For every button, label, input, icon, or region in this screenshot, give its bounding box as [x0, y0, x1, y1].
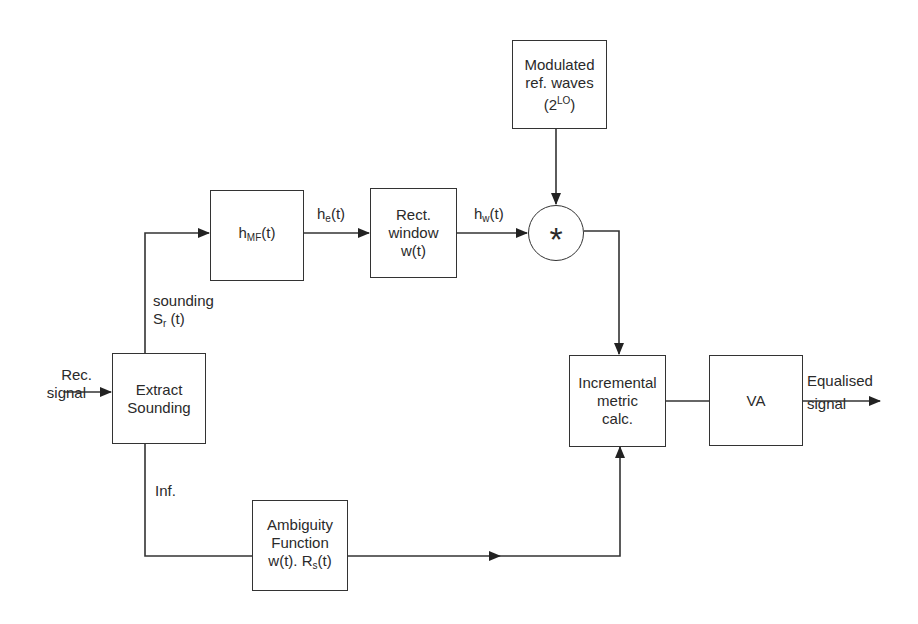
superscript: LO [557, 95, 570, 106]
block-label: (t) [317, 552, 331, 569]
label-line: (t) [331, 205, 345, 222]
label-line: S [153, 310, 163, 327]
modulated-ref-waves-block: Modulated ref. waves (2LO) [512, 40, 607, 129]
block-label: Extract [136, 381, 183, 398]
block-label: Rect. [396, 206, 431, 223]
block-label: Sounding [127, 399, 190, 416]
block-label: metric [597, 392, 638, 409]
ambiguity-function-block: Ambiguity Function w(t). Rs(t) [252, 500, 348, 591]
block-label: ref. waves [525, 74, 593, 91]
label-line: signal [807, 395, 846, 413]
he-signal-label: he(t) [317, 205, 345, 228]
inf-signal-label: Inf. [155, 482, 176, 500]
block-label: Modulated [524, 56, 594, 73]
input-signal-label: Rec. signal [48, 366, 92, 402]
output-signal-label: Equalised signal [807, 372, 873, 413]
hw-signal-label: hw(t) [474, 205, 504, 228]
label-line: (t) [490, 205, 504, 222]
block-label: ) [570, 96, 575, 113]
matched-filter-block: hMF(t) [210, 190, 304, 281]
viterbi-algorithm-block: VA [709, 355, 803, 446]
extract-sounding-block: Extract Sounding [112, 353, 206, 444]
block-label: h [239, 224, 247, 241]
block-label: Incremental [578, 374, 656, 391]
subscript: w [482, 213, 489, 224]
block-label: w(t) [401, 242, 426, 259]
block-label: (t) [261, 224, 275, 241]
block-label: window [388, 224, 438, 241]
convolution-icon: * [549, 222, 562, 256]
block-label: Ambiguity [267, 516, 333, 533]
block-label: Function [271, 534, 329, 551]
label-line: sounding [153, 292, 214, 309]
label-line: Rec. [61, 366, 92, 383]
block-label: calc. [602, 410, 633, 427]
incremental-metric-block: Incremental metric calc. [569, 355, 666, 447]
convolution-node: * [528, 205, 584, 261]
label-line: Equalised [807, 372, 873, 389]
label-line: signal [47, 384, 86, 401]
rect-window-block: Rect. window w(t) [370, 188, 457, 278]
block-label: w(t). R [268, 552, 312, 569]
block-label: (2 [544, 96, 557, 113]
subscript: MF [247, 232, 261, 243]
sounding-signal-label: sounding Sr (t) [153, 292, 214, 333]
block-label: VA [747, 392, 766, 410]
label-line: (t) [166, 310, 184, 327]
connection-wires [0, 0, 918, 624]
